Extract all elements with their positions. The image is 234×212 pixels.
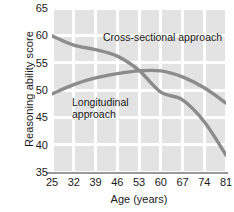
annotation-longitudinal: Longitudinal approach bbox=[72, 96, 129, 120]
x-axis-title: Age (years) bbox=[52, 193, 226, 205]
annotation-cross-sectional: Cross-sectional approach bbox=[103, 31, 222, 43]
x-tick-label: 81 bbox=[211, 176, 234, 188]
reasoning-ability-line-chart: Reasoning ability score 35404550556065 2… bbox=[0, 0, 234, 212]
